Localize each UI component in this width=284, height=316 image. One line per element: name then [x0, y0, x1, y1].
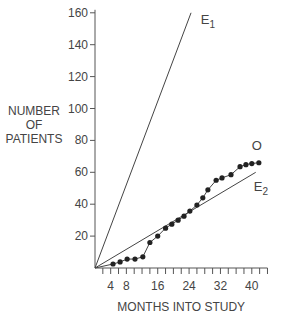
y-tick-label: 160	[68, 6, 88, 20]
data-point	[249, 161, 254, 166]
y-axis-label: NUMBER	[8, 104, 60, 118]
labels-layer: MONTHS INTO STUDYNUMBEROFPATIENTSE1OE2	[6, 12, 269, 314]
annotation-e1: E1	[201, 12, 216, 30]
annotation-e2: E2	[254, 179, 269, 197]
data-point	[117, 259, 122, 264]
x-tick-label: 16	[151, 279, 165, 293]
x-tick-label: 40	[245, 279, 259, 293]
data-point	[181, 214, 186, 219]
y-tick-label: 80	[75, 133, 89, 147]
x-tick-label: 4	[107, 279, 114, 293]
line-chart: 204060801001201401604816243240 MONTHS IN…	[0, 0, 284, 316]
data-point	[205, 187, 210, 192]
data-point	[219, 175, 224, 180]
y-tick-label: 20	[75, 229, 89, 243]
data-point	[176, 218, 181, 223]
data-point	[125, 256, 130, 261]
series-o-line	[95, 163, 259, 268]
y-axis-label: PATIENTS	[6, 132, 63, 146]
data-point	[237, 164, 242, 169]
data-point	[155, 234, 160, 239]
data-point	[256, 160, 261, 165]
y-tick-label: 140	[68, 38, 88, 52]
data-point	[110, 261, 115, 266]
data-point	[200, 195, 205, 200]
y-tick-label: 100	[68, 102, 88, 116]
data-point	[169, 222, 174, 227]
y-tick-label: 60	[75, 165, 89, 179]
data-point	[132, 256, 137, 261]
x-tick-label: 32	[214, 279, 228, 293]
series-e1-line	[95, 13, 191, 268]
annotation-o: O	[252, 138, 262, 153]
data-point	[214, 178, 219, 183]
data-point	[147, 240, 152, 245]
data-point	[187, 208, 192, 213]
data-point	[140, 254, 145, 259]
y-axis-label: OF	[26, 118, 43, 132]
y-tick-label: 40	[75, 197, 89, 211]
data-point	[243, 162, 248, 167]
series-layer	[95, 13, 261, 268]
y-tick-label: 120	[68, 70, 88, 84]
data-point	[163, 226, 168, 231]
series-e2-line	[95, 172, 256, 268]
x-axis-label: MONTHS INTO STUDY	[117, 300, 245, 314]
x-tick-label: 8	[123, 279, 130, 293]
x-tick-label: 24	[182, 279, 196, 293]
axes: 204060801001201401604816243240	[68, 6, 268, 293]
data-point	[228, 172, 233, 177]
data-point	[194, 202, 199, 207]
